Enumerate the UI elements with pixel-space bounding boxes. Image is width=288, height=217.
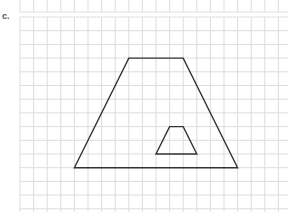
grid-diagram xyxy=(0,0,288,217)
grid-lines xyxy=(20,17,288,212)
top-grid-strip xyxy=(20,0,288,12)
